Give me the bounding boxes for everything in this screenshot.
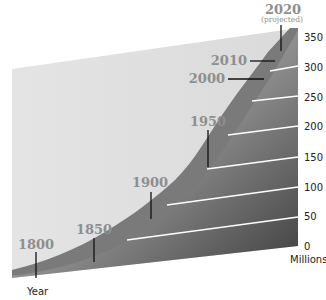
label-1850: 1850 (76, 222, 112, 237)
tick-0: 0 (304, 241, 310, 252)
x-axis-label: Year (26, 286, 49, 297)
tick-350: 350 (304, 32, 323, 43)
tick-200: 200 (304, 121, 323, 132)
label-1900: 1900 (132, 175, 168, 190)
label-2010: 2010 (211, 53, 247, 68)
tick-50: 50 (304, 211, 317, 222)
label-projected: (projected) (261, 15, 303, 24)
label-1800: 1800 (18, 237, 54, 252)
tick-100: 100 (304, 182, 323, 193)
tick-250: 250 (304, 92, 323, 103)
tick-300: 300 (304, 62, 323, 73)
population-chart: 2020 (projected) 2010 2000 1950 1900 185… (0, 0, 326, 300)
tick-150: 150 (304, 152, 323, 163)
y-axis-label: Millions (290, 254, 326, 265)
label-1950: 1950 (190, 114, 226, 129)
label-2000: 2000 (189, 71, 225, 86)
